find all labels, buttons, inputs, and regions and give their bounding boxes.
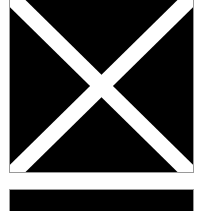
diagonal-cross-icon <box>10 0 193 172</box>
graphic-canvas <box>0 0 203 211</box>
black-bar <box>10 190 193 211</box>
black-square-with-cross <box>10 0 193 172</box>
